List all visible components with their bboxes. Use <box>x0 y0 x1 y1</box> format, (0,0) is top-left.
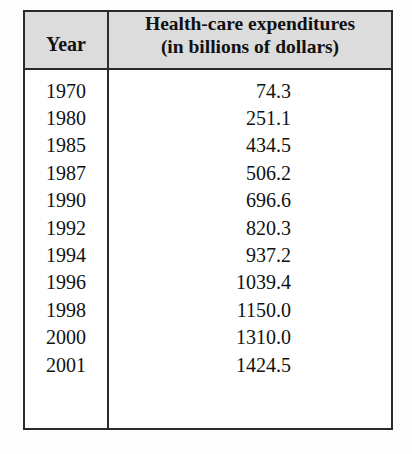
cell-year: 1994 <box>25 241 108 268</box>
table-row: 197074.3 <box>25 69 391 104</box>
column-header-year: Year <box>25 12 108 69</box>
cell-year: 1985 <box>25 132 108 159</box>
table-row: 20011424.5 <box>25 351 391 378</box>
spacer-cell-value <box>108 378 391 428</box>
cell-expenditure-value: 1039.4 <box>108 269 391 296</box>
cell-expenditure-value: 74.3 <box>108 69 391 104</box>
cell-expenditure-value: 696.6 <box>108 187 391 214</box>
table-row: 1985434.5 <box>25 132 391 159</box>
cell-year: 1992 <box>25 214 108 241</box>
table-row: 1992820.3 <box>25 214 391 241</box>
cell-year: 2000 <box>25 324 108 351</box>
header-row: Year Health-care expenditures (in billio… <box>25 12 391 69</box>
column-header-expenditures-line-2: (in billions of dollars) <box>115 35 385 58</box>
cell-year: 1970 <box>25 69 108 104</box>
cell-year: 1996 <box>25 269 108 296</box>
cell-year: 1980 <box>25 104 108 131</box>
cell-expenditure-value: 506.2 <box>108 159 391 186</box>
table-row: 1987506.2 <box>25 159 391 186</box>
page-root: Year Health-care expenditures (in billio… <box>0 0 412 454</box>
table-row: 1990696.6 <box>25 187 391 214</box>
cell-expenditure-value: 251.1 <box>108 104 391 131</box>
health-care-expenditures-table: Year Health-care expenditures (in billio… <box>23 10 393 430</box>
table-row: 20001310.0 <box>25 324 391 351</box>
cell-expenditure-value: 1150.0 <box>108 296 391 323</box>
table-body: 197074.31980251.11985434.51987506.219906… <box>25 69 391 428</box>
table-row: 1980251.1 <box>25 104 391 131</box>
spacer-cell-year <box>25 378 108 428</box>
table-row: 1994937.2 <box>25 241 391 268</box>
cell-expenditure-value: 937.2 <box>108 241 391 268</box>
cell-year: 1987 <box>25 159 108 186</box>
cell-year: 1990 <box>25 187 108 214</box>
column-header-expenditures: Health-care expenditures (in billions of… <box>108 12 391 69</box>
data-table: Year Health-care expenditures (in billio… <box>25 12 391 428</box>
table-row: 19981150.0 <box>25 296 391 323</box>
table-bottom-spacer <box>25 378 391 428</box>
table-row: 19961039.4 <box>25 269 391 296</box>
cell-year: 2001 <box>25 351 108 378</box>
cell-expenditure-value: 820.3 <box>108 214 391 241</box>
cell-year: 1998 <box>25 296 108 323</box>
cell-expenditure-value: 434.5 <box>108 132 391 159</box>
column-header-expenditures-line-1: Health-care expenditures <box>115 12 385 35</box>
cell-expenditure-value: 1424.5 <box>108 351 391 378</box>
table-header: Year Health-care expenditures (in billio… <box>25 12 391 69</box>
cell-expenditure-value: 1310.0 <box>108 324 391 351</box>
